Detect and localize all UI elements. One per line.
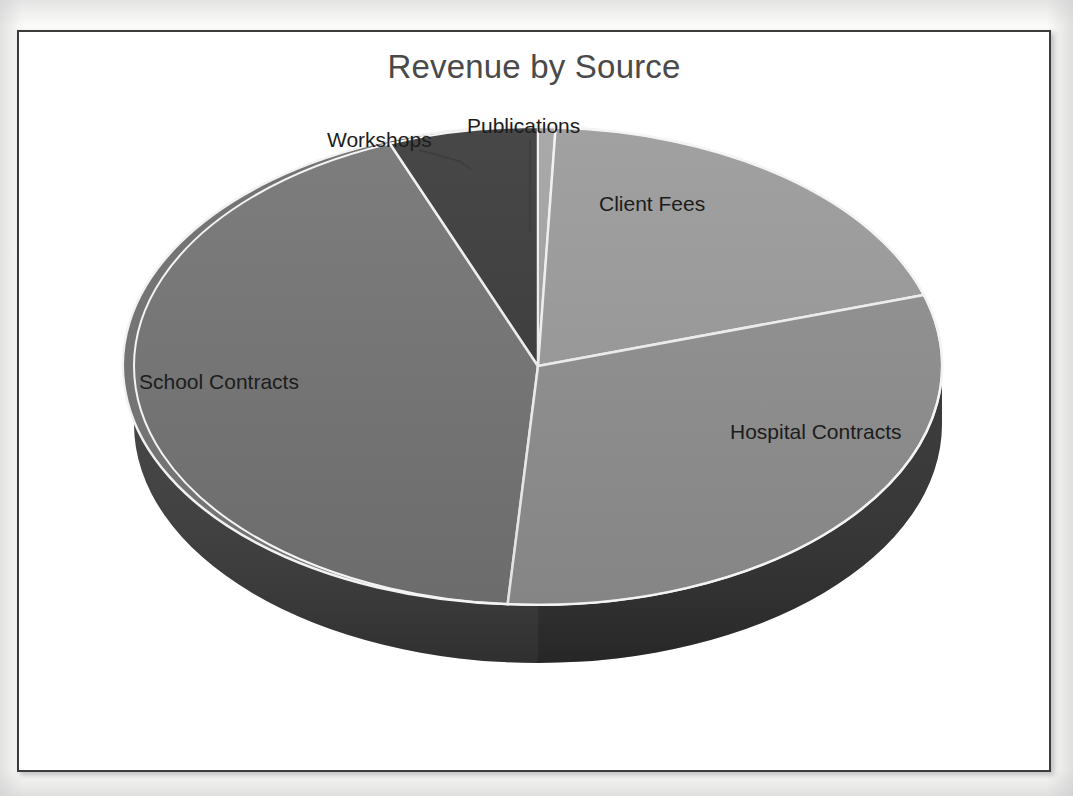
pie-top-face — [123, 127, 942, 605]
slice-label-workshops: Workshops — [327, 128, 432, 152]
pie-chart — [19, 32, 1051, 772]
slice-label-client-fees: Client Fees — [599, 192, 705, 216]
scanned-page-background: Revenue by Source — [0, 0, 1073, 796]
slice-label-school-contracts: School Contracts — [139, 370, 299, 394]
chart-frame: Revenue by Source — [17, 30, 1051, 772]
top-face-shading — [134, 127, 942, 605]
slice-label-publications: Publications — [467, 114, 580, 138]
slice-label-hospital-contracts: Hospital Contracts — [730, 420, 902, 444]
